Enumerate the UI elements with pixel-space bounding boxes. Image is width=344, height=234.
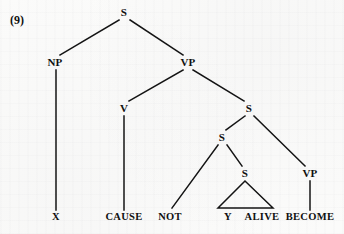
tree-edge-s-embedded-to-vp-become: [254, 116, 305, 166]
tree-node-vp-main: VP: [180, 57, 195, 68]
tree-node-vp-become: VP: [302, 168, 317, 179]
tree-terminal-cause: CAUSE: [105, 212, 142, 223]
tree-node-v: V: [120, 103, 128, 114]
syntax-tree-graphic: [0, 0, 344, 234]
tree-node-s-small: S: [242, 168, 248, 179]
tree-node-s-neg: S: [219, 132, 225, 143]
tree-edge-s-root-to-vp-main: [130, 20, 183, 55]
tree-terminal-alive: ALIVE: [245, 212, 280, 223]
tree-node-s-embedded: S: [246, 103, 252, 114]
figure-page: (9) SNPVPVSSSVP XCAUSENOTYALIVEBECOME: [0, 0, 344, 234]
tree-terminal-become: BECOME: [286, 212, 334, 223]
tree-edge-vp-main-to-v: [129, 70, 183, 101]
tree-edge-s-neg-to-not: [172, 145, 218, 208]
tree-terminal-y: Y: [224, 212, 232, 223]
tree-edge-s-embedded-to-s-neg: [226, 116, 245, 130]
tree-edge-layer: [56, 20, 310, 210]
tree-terminal-not: NOT: [158, 212, 182, 223]
tree-node-np: NP: [47, 57, 62, 68]
tree-edge-vp-main-to-s-embedded: [193, 70, 244, 101]
tree-node-s-root: S: [121, 7, 127, 18]
tree-edge-s-neg-to-s-small: [227, 145, 242, 166]
tree-edge-s-root-to-np: [60, 20, 119, 55]
tree-triangle-layer: [218, 181, 273, 208]
tree-terminal-x: X: [52, 212, 60, 223]
abbreviation-triangle-icon: [218, 181, 273, 208]
